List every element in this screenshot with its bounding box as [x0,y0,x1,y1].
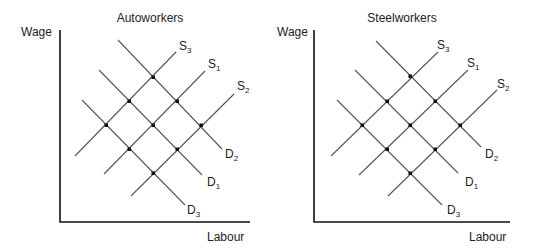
label-d2: D2 [225,147,239,163]
y-axis-label: Wage [277,25,308,39]
chart-title: Autoworkers [117,11,184,25]
label-s1: S1 [467,56,480,72]
label-d2: D2 [485,147,499,163]
label-s1: S1 [208,57,221,73]
demand-curve-d1 [99,70,202,175]
steelworkers-diagram: Steelworkers Wage Labour S3 S1 S2 D2 D1 [277,11,510,244]
label-d1: D1 [465,175,479,191]
supply-curve-s1 [359,70,468,175]
label-s2: S2 [497,77,510,93]
label-s2: S2 [237,79,250,95]
x-axis-label: Labour [469,230,506,244]
demand-curve-d2 [118,40,222,149]
demand-curve-d3 [337,100,442,205]
label-d3: D3 [187,203,201,219]
chart-title: Steelworkers [367,11,436,25]
supply-curve-s1 [104,71,205,174]
autoworkers-diagram: Autoworkers Wage Labour S3 S1 S2 D2 D1 [21,11,250,244]
supply-curve-s2 [388,90,497,196]
demand-curve-d1 [355,70,458,173]
demand-curve-d3 [82,100,185,205]
label-d3: D3 [447,203,461,219]
label-d1: D1 [207,175,221,191]
supply-curve-s3 [75,52,176,156]
supply-curve-s3 [331,52,438,156]
x-axis-label: Labour [207,230,244,244]
y-axis-label: Wage [21,25,52,39]
label-s3: S3 [179,39,192,55]
equilibrium-points [361,75,463,176]
demand-curve-d2 [376,41,481,147]
labour-market-diagrams: Autoworkers Wage Labour S3 S1 S2 D2 D1 [0,0,534,250]
label-s3: S3 [437,38,450,54]
